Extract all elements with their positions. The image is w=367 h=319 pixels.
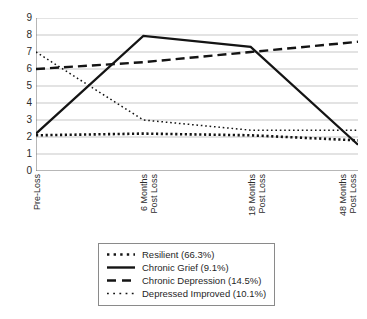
x-tick-label-line: Pre-Loss xyxy=(32,174,42,210)
legend-item-label: Chronic Grief (9.1%) xyxy=(142,262,229,273)
y-axis: 0123456789 xyxy=(18,11,32,178)
x-tick-label: 18 MonthsPost Loss xyxy=(247,174,267,238)
x-tick-label: 48 MonthsPost Loss xyxy=(338,174,358,238)
legend-item[interactable]: Chronic Grief (9.1%) xyxy=(106,261,266,274)
y-tick-label: 1 xyxy=(18,149,32,159)
x-tick-label-line: Post Loss xyxy=(257,174,267,214)
solid-line-swatch xyxy=(106,262,136,273)
legend-item[interactable]: Depressed Improved (10.1%) xyxy=(106,287,266,300)
x-tick-label-line: Post Loss xyxy=(348,174,358,214)
legend-item-label: Chronic Depression (14.5%) xyxy=(142,275,261,286)
y-tick-label: 6 xyxy=(18,64,32,74)
grief-trajectories-line-chart: 0123456789 Pre-Loss6 MonthsPost Loss18 M… xyxy=(0,0,367,319)
y-tick-label: 2 xyxy=(18,132,32,142)
dashed-line-swatch xyxy=(106,275,136,286)
y-tick-label: 8 xyxy=(18,30,32,40)
legend: Resilient (66.3%)Chronic Grief (9.1%)Chr… xyxy=(98,243,275,306)
dotted-bold-swatch xyxy=(106,249,136,260)
x-tick-label: Pre-Loss xyxy=(32,174,42,238)
legend-item[interactable]: Resilient (66.3%) xyxy=(106,248,266,261)
legend-item-label: Depressed Improved (10.1%) xyxy=(142,288,266,299)
x-axis: Pre-Loss6 MonthsPost Loss18 MonthsPost L… xyxy=(36,174,358,238)
series-line xyxy=(36,42,358,69)
x-tick-label-line: 48 Months xyxy=(338,174,348,216)
x-tick-label: 6 MonthsPost Loss xyxy=(139,174,159,238)
y-tick-label: 7 xyxy=(18,47,32,57)
x-tick-label-line: Post Loss xyxy=(149,174,159,214)
y-tick-label: 3 xyxy=(18,115,32,125)
x-tick-label-line: 18 Months xyxy=(247,174,257,216)
y-tick-label: 4 xyxy=(18,98,32,108)
plot-svg xyxy=(36,18,358,171)
x-tick-label-line: 6 Months xyxy=(139,174,149,211)
y-tick-label: 0 xyxy=(18,166,32,176)
y-tick-label: 5 xyxy=(18,81,32,91)
series-line xyxy=(36,52,358,130)
legend-item[interactable]: Chronic Depression (14.5%) xyxy=(106,274,266,287)
plot-area xyxy=(36,18,358,171)
y-tick-label: 9 xyxy=(18,13,32,23)
legend-item-label: Resilient (66.3%) xyxy=(142,249,214,260)
dotted-fine-swatch xyxy=(106,288,136,299)
